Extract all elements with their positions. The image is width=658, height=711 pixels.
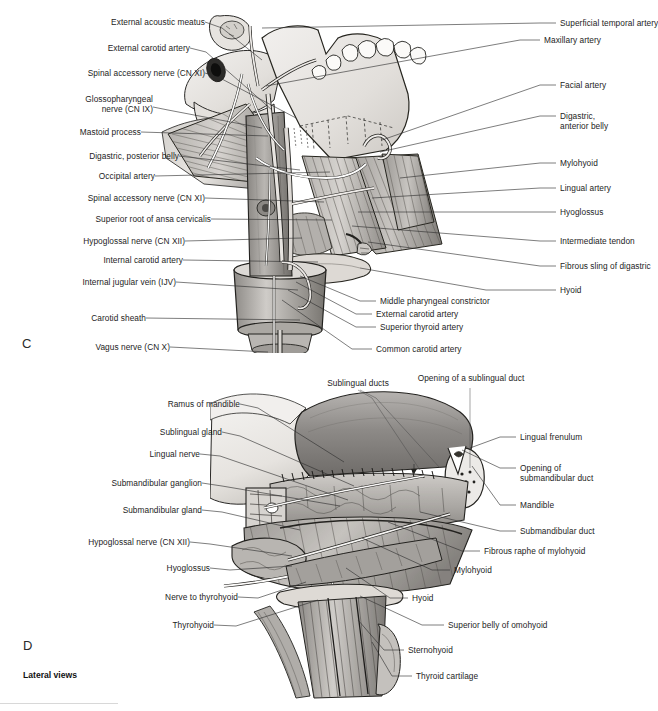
label-common-carotid-artery: Common carotid artery (376, 344, 461, 354)
label-opening-of-submandibular-duct-line2: submandibular duct (520, 473, 593, 483)
label-hypoglossal-nerve-cn-xii-d: Hypoglossal nerve (CN XII) (5, 537, 190, 547)
label-fibrous-raphe-of-mylohyoid: Fibrous raphe of mylohyoid (484, 546, 585, 556)
label-mastoid-process: Mastoid process (5, 127, 141, 137)
label-superior-thyroid-artery: Superior thyroid artery (380, 322, 463, 332)
label-hyoglossus-d: Hyoglossus (5, 563, 210, 573)
label-external-acoustic-meatus: External acoustic meatus (5, 17, 205, 27)
label-submandibular-gland: Submandibular gland (5, 505, 202, 515)
label-lingual-nerve: Lingual nerve (5, 449, 200, 459)
panel-letter-c: C (22, 336, 31, 351)
label-digastric-anterior-belly-line1: Digastric, (560, 111, 595, 121)
panel-letter-d: D (23, 638, 32, 653)
label-superior-root-of-ansa-cervicalis: Superior root of ansa cervicalis (5, 214, 211, 224)
label-glossopharyngeal-nerve-line2: nerve (CN IX) (5, 104, 153, 114)
label-hyoid-c: Hyoid (560, 285, 581, 295)
label-lingual-artery-c: Lingual artery (560, 183, 611, 193)
label-hyoid-d: Hyoid (412, 593, 433, 603)
label-middle-pharyngeal-constrictor: Middle pharyngeal constrictor (380, 296, 490, 306)
label-mandible: Mandible (520, 500, 554, 510)
label-carotid-sheath: Carotid sheath (5, 313, 146, 323)
label-internal-carotid-artery: Internal carotid artery (5, 255, 183, 265)
label-hyoglossus-c: Hyoglossus (560, 207, 603, 217)
label-sublingual-ducts: Sublingual ducts (300, 378, 416, 388)
label-thyroid-cartilage: Thyroid cartilage (416, 671, 478, 681)
label-digastric-anterior-belly-line2: anterior belly (560, 121, 608, 131)
label-spinal-accessory-nerve-upper: Spinal accessory nerve (CN XI) (5, 68, 205, 78)
label-submandibular-ganglion: Submandibular ganglion (5, 478, 202, 488)
label-glossopharyngeal-nerve-line1: Glossopharyngeal (5, 94, 153, 104)
figure-caption: Lateral views (23, 670, 77, 680)
label-spinal-accessory-nerve-lower: Spinal accessory nerve (CN XI) (5, 193, 205, 203)
panel-d-illustration (210, 378, 510, 703)
label-superficial-temporal-artery: Superficial temporal artery (560, 18, 658, 28)
label-sublingual-gland: Sublingual gland (5, 427, 222, 437)
label-thyrohyoid: Thyrohyoid (5, 620, 214, 630)
label-superior-belly-of-omohyoid: Superior belly of omohyoid (448, 620, 548, 630)
label-internal-jugular-vein: Internal jugular vein (IJV) (5, 277, 176, 287)
label-mylohyoid-d: Mylohyoid (454, 565, 492, 575)
label-facial-artery: Facial artery (560, 80, 606, 90)
label-lingual-frenulum: Lingual frenulum (520, 432, 582, 442)
label-opening-of-submandibular-duct-line1: Opening of (520, 463, 561, 473)
label-external-carotid-artery-lower: External carotid artery (376, 309, 458, 319)
footer-rule (0, 703, 118, 704)
label-external-carotid-artery-upper: External carotid artery (5, 43, 190, 53)
label-hypoglossal-nerve-cn-xii: Hypoglossal nerve (CN XII) (5, 236, 185, 246)
label-digastric-posterior-belly: Digastric, posterior belly (5, 151, 179, 161)
label-occipital-artery: Occipital artery (5, 171, 155, 181)
label-ramus-of-mandible: Ramus of mandible (5, 399, 240, 409)
label-opening-of-a-sublingual-duct: Opening of a sublingual duct (400, 373, 542, 383)
label-sternohyoid: Sternohyoid (408, 645, 453, 655)
label-maxillary-artery: Maxillary artery (544, 35, 601, 45)
label-mylohyoid-c: Mylohyoid (560, 158, 598, 168)
label-nerve-to-thyrohyoid: Nerve to thyrohyoid (5, 592, 238, 602)
label-fibrous-sling-of-digastric: Fibrous sling of digastric (560, 261, 651, 271)
label-intermediate-tendon: Intermediate tendon (560, 236, 635, 246)
label-submandibular-duct: Submandibular duct (520, 526, 595, 536)
